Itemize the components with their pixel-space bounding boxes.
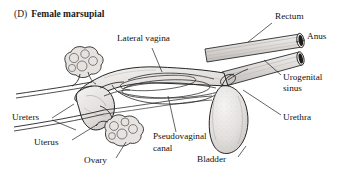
label-urethra: Urethra: [283, 112, 311, 123]
panel-letter: (D): [14, 9, 27, 19]
label-pseudovaginal-line2: canal: [153, 143, 172, 154]
label-lateral-vagina: Lateral vagina: [117, 33, 170, 44]
label-ureters: Ureters: [12, 112, 39, 123]
label-urogenital-sinus-line2: sinus: [283, 83, 302, 94]
figure-caption: (D)Female marsupial: [14, 8, 104, 20]
figure-panel-d: (D)Female marsupial Lateral vagina Rectu…: [0, 0, 343, 186]
label-ovary: Ovary: [84, 155, 107, 166]
label-urogenital-sinus-line1: Urogenital: [283, 72, 322, 83]
leader-ureters-upper: [52, 104, 74, 118]
leader-pseudovaginal-canal: [168, 96, 176, 132]
leader-ureters-lower: [52, 120, 76, 130]
leader-urethra: [243, 90, 281, 115]
label-pseudovaginal-line1: Pseudovaginal: [153, 131, 207, 142]
label-bladder: Bladder: [197, 154, 226, 165]
figure-title: Female marsupial: [31, 9, 104, 19]
label-rectum: Rectum: [275, 11, 304, 22]
label-uterus: Uterus: [34, 137, 59, 148]
ovary-upper-organ: [64, 46, 104, 86]
leader-uterus: [72, 124, 98, 140]
label-anus: Anus: [307, 31, 326, 42]
